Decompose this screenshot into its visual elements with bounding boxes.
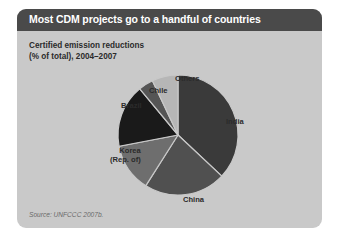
pie-chart: India China Korea (Rep. of) Brazil Chile…: [17, 9, 322, 228]
figure-container: Most CDM projects go to a handful of cou…: [0, 0, 339, 245]
pie-label-brazil: Brazil: [121, 101, 142, 110]
pie-chart-svg: [17, 9, 322, 228]
chart-source: Source: UNFCCC 2007b.: [29, 211, 103, 218]
pie-label-korea-line1: Korea: [110, 146, 141, 155]
pie-slice-group: [118, 75, 238, 195]
pie-label-korea: Korea (Rep. of): [110, 146, 141, 164]
pie-label-china: China: [183, 195, 204, 204]
pie-label-korea-line2: (Rep. of): [110, 155, 141, 164]
pie-label-india: India: [226, 117, 244, 126]
pie-label-others: Others: [175, 74, 199, 83]
pie-label-chile: Chile: [149, 86, 168, 95]
